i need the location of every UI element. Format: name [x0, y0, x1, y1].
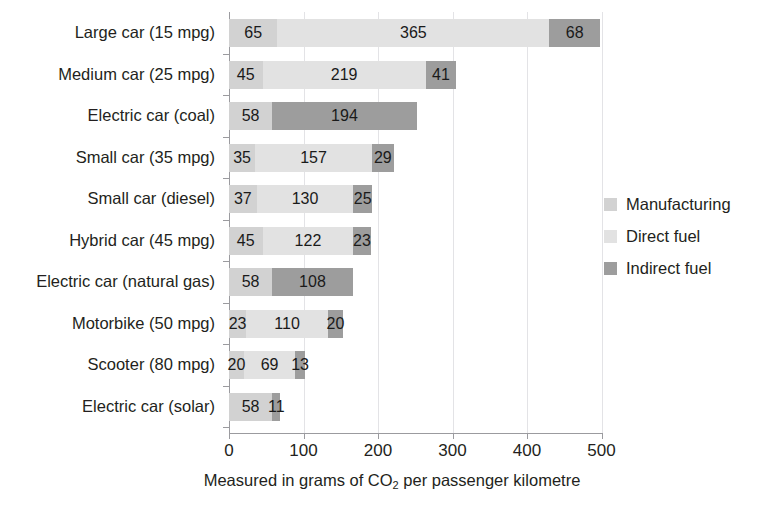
bar-segment-value: 157 [300, 149, 327, 167]
bar-row: Medium car (25 mpg)4521941 [0, 54, 784, 96]
x-tick-label: 200 [364, 441, 392, 461]
bar-segment-value: 194 [331, 107, 358, 125]
bar-segment[interactable]: 11 [272, 393, 280, 421]
bar-row: Electric car (coal)58194 [0, 95, 784, 137]
bar-segment[interactable]: 108 [272, 268, 352, 296]
bar-segment-value: 45 [237, 232, 255, 250]
bar-segment[interactable]: 23 [229, 310, 246, 338]
stacked-bar-chart: 0100200300400500 Large car (15 mpg)65365… [0, 0, 784, 512]
bar-segment-value: 65 [244, 24, 262, 42]
stacked-bar[interactable]: 206913 [229, 351, 305, 379]
category-label: Electric car (natural gas) [0, 261, 215, 303]
bar-segment-value: 108 [299, 273, 326, 291]
clipped-title-strip [0, 0, 784, 10]
legend-label: Direct fuel [626, 227, 700, 246]
category-label: Scooter (80 mpg) [0, 344, 215, 386]
bar-segment-value: 219 [331, 66, 358, 84]
category-label: Electric car (coal) [0, 95, 215, 137]
bar-segment[interactable]: 194 [272, 102, 417, 130]
bar-segment[interactable]: 29 [372, 144, 394, 172]
bar-segment-value: 23 [229, 315, 247, 333]
category-label: Large car (15 mpg) [0, 12, 215, 54]
category-label: Medium car (25 mpg) [0, 54, 215, 96]
bar-segment-value: 110 [274, 315, 300, 333]
bar-segment-value: 365 [400, 24, 427, 42]
legend-item[interactable]: Indirect fuel [604, 252, 731, 284]
bar-segment-value: 58 [242, 107, 260, 125]
legend-label: Manufacturing [626, 195, 731, 214]
legend-item[interactable]: Direct fuel [604, 220, 731, 252]
bar-segment[interactable]: 130 [257, 185, 354, 213]
stacked-bar[interactable]: 5811 [229, 393, 280, 421]
stacked-bar[interactable]: 58194 [229, 102, 417, 130]
bar-segment[interactable]: 58 [229, 393, 272, 421]
bar-segment-value: 25 [354, 190, 372, 208]
x-tick-mark [602, 433, 603, 439]
bar-segment[interactable]: 58 [229, 268, 272, 296]
bar-segment-value: 130 [292, 190, 319, 208]
bar-segment[interactable]: 45 [229, 227, 263, 255]
x-tick-mark [229, 433, 230, 439]
bar-segment-value: 35 [233, 149, 251, 167]
legend-label: Indirect fuel [626, 259, 711, 278]
bar-segment[interactable]: 110 [246, 310, 328, 338]
bar-row: Large car (15 mpg)6536568 [0, 12, 784, 54]
bar-segment[interactable]: 20 [229, 351, 244, 379]
bar-segment-value: 20 [327, 315, 345, 333]
bar-segment[interactable]: 35 [229, 144, 255, 172]
bar-segment[interactable]: 58 [229, 102, 272, 130]
bar-segment-value: 122 [295, 232, 322, 250]
bar-segment[interactable]: 157 [255, 144, 372, 172]
bar-segment-value: 20 [228, 356, 246, 374]
bar-segment[interactable]: 20 [328, 310, 343, 338]
stacked-bar[interactable]: 3713025 [229, 185, 372, 213]
bar-segment-value: 45 [237, 66, 255, 84]
bar-segment[interactable]: 13 [295, 351, 305, 379]
stacked-bar[interactable]: 4521941 [229, 61, 456, 89]
x-tick-label: 300 [438, 441, 466, 461]
x-tick-label: 0 [224, 441, 233, 461]
bar-row: Small car (35 mpg)3515729 [0, 137, 784, 179]
bar-segment-value: 69 [261, 356, 279, 374]
bar-segment[interactable]: 69 [244, 351, 295, 379]
stacked-bar[interactable]: 3515729 [229, 144, 394, 172]
category-label: Electric car (solar) [0, 386, 215, 428]
bar-segment-value: 13 [291, 356, 309, 374]
bar-segment[interactable]: 37 [229, 185, 257, 213]
x-axis-line [229, 433, 602, 434]
bar-segment[interactable]: 122 [263, 227, 354, 255]
stacked-bar[interactable]: 6536568 [229, 19, 600, 47]
legend-item[interactable]: Manufacturing [604, 188, 731, 220]
bar-segment-value: 68 [566, 24, 584, 42]
stacked-bar[interactable]: 4512223 [229, 227, 371, 255]
bar-segment-value: 58 [242, 398, 260, 416]
bar-segment[interactable]: 219 [263, 61, 426, 89]
bar-segment-value: 41 [432, 66, 450, 84]
chart-legend: ManufacturingDirect fuelIndirect fuel [604, 188, 731, 284]
bar-segment[interactable]: 365 [277, 19, 549, 47]
stacked-bar[interactable]: 2311020 [229, 310, 343, 338]
category-label: Small car (diesel) [0, 178, 215, 220]
bar-segment[interactable]: 45 [229, 61, 263, 89]
bar-segment[interactable]: 41 [426, 61, 457, 89]
bar-segment[interactable]: 25 [353, 185, 372, 213]
x-tick-mark [527, 433, 528, 439]
bar-row: Electric car (solar)5811 [0, 386, 784, 428]
category-label: Hybrid car (45 mpg) [0, 220, 215, 262]
x-axis-title-suffix: per passenger kilometre [399, 471, 581, 489]
bar-segment-value: 58 [242, 273, 260, 291]
bar-segment-value: 23 [353, 232, 371, 250]
y-tick-mark [223, 427, 229, 428]
legend-swatch-icon [604, 198, 617, 211]
bar-segment[interactable]: 23 [353, 227, 370, 255]
bar-segment[interactable]: 65 [229, 19, 277, 47]
x-tick-mark [304, 433, 305, 439]
x-tick-label: 100 [289, 441, 317, 461]
bar-segment-value: 29 [374, 149, 392, 167]
category-label: Small car (35 mpg) [0, 137, 215, 179]
stacked-bar[interactable]: 58108 [229, 268, 353, 296]
bar-segment[interactable]: 68 [549, 19, 600, 47]
x-axis-title: Measured in grams of CO2 per passenger k… [0, 471, 784, 491]
x-tick-mark [453, 433, 454, 439]
bar-segment-value: 11 [268, 398, 285, 416]
